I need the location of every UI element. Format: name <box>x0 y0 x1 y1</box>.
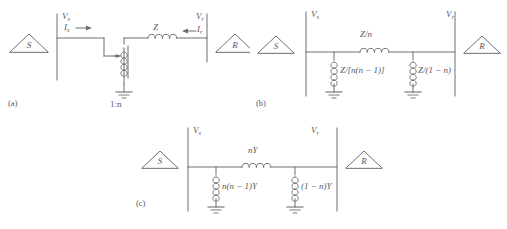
panel-a-is-label: Is <box>64 23 70 33</box>
panel-b-series-impedance-label: Z/n <box>360 30 372 39</box>
panel-a-turns-ratio-label: 1:n <box>110 100 122 109</box>
panel-b-receiving-letter: R <box>478 41 485 51</box>
panel-b-source-letter: S <box>274 41 279 51</box>
panel-c-source-letter: S <box>158 156 163 166</box>
panel-a-source-letter: S <box>27 40 32 50</box>
panel-c-shunt-left-label: n(n − 1)Y <box>222 182 257 191</box>
panel-a-vr-label: Vr <box>196 12 204 22</box>
figure-canvas: S R Vs Is Vr Ir Z 1:n (a) <box>0 0 507 229</box>
panel-a-tag: (a) <box>8 98 17 108</box>
panel-b-shunt-right-label: Z/(1 − n) <box>418 66 451 75</box>
panel-b-tag: (b) <box>256 98 266 108</box>
panel-a-circuit: S R <box>0 0 250 115</box>
panel-c-series-admittance-label: nY <box>248 146 258 155</box>
panel-c-vs-label: Vs <box>193 126 201 136</box>
panel-a-receiving-letter: R <box>231 40 238 50</box>
panel-a-z-label: Z <box>153 23 158 32</box>
panel-c-circuit: S R <box>130 115 390 229</box>
panel-a-vs-label: Vs <box>62 12 70 22</box>
panel-c-tag: (c) <box>136 198 145 208</box>
panel-b-shunt-left-label: Z/[n(n − 1)] <box>340 66 385 75</box>
panel-b-vr-label: Vr <box>446 10 454 20</box>
panel-b-vs-label: Vs <box>311 10 319 20</box>
panel-c-shunt-right-label: (1 − n)Y <box>301 182 332 191</box>
panel-a-ir-label: Ir <box>197 25 203 35</box>
panel-c-vr-label: Vr <box>311 126 319 136</box>
panel-b-circuit: S R <box>250 0 507 115</box>
panel-c-receiving-letter: R <box>360 156 367 166</box>
